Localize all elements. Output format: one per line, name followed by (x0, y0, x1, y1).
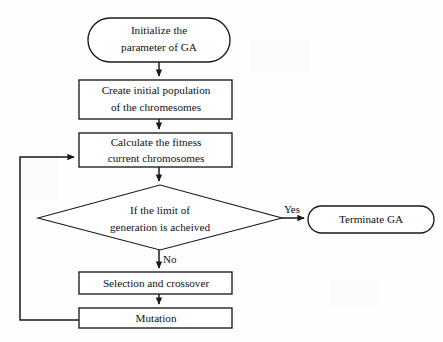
node-initialize-line2: parameter of GA (121, 41, 197, 53)
node-create-population-line2: of the chromesomes (111, 101, 201, 113)
node-limit-check-shape (38, 185, 282, 250)
connector-mutation-feedback-loop (20, 157, 79, 320)
node-limit-check-line2: generation is acheived (110, 221, 210, 233)
flowchart-svg: Initialize the parameter of GA Create in… (0, 0, 443, 342)
node-selection-crossover[interactable]: Selection and crossover (79, 272, 232, 294)
node-limit-check[interactable]: If the limit of generation is acheived (38, 185, 282, 250)
flowchart-canvas: Initialize the parameter of GA Create in… (0, 0, 443, 342)
node-calculate-fitness-line2: current chromosomes (108, 152, 205, 164)
node-selection-crossover-label: Selection and crossover (103, 277, 210, 289)
node-create-population-line1: Create initial population (102, 84, 211, 96)
node-terminate-label: Terminate GA (339, 213, 403, 225)
node-calculate-fitness-line1: Calculate the fitness (111, 136, 202, 148)
node-limit-check-line1: If the limit of (130, 204, 190, 216)
node-mutation[interactable]: Mutation (79, 308, 232, 328)
node-initialize-line1: Initialize the (131, 24, 187, 36)
edge-label-no: No (163, 253, 177, 265)
node-terminate[interactable]: Terminate GA (308, 206, 434, 233)
node-create-population[interactable]: Create initial population of the chromes… (79, 80, 232, 119)
node-initialize[interactable]: Initialize the parameter of GA (88, 18, 230, 62)
edge-label-yes: Yes (284, 203, 300, 215)
node-calculate-fitness[interactable]: Calculate the fitness current chromosome… (79, 133, 232, 167)
node-mutation-label: Mutation (135, 312, 176, 324)
